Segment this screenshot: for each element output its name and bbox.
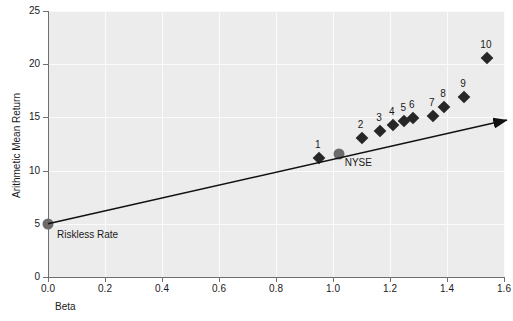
x-axis-tick — [276, 277, 277, 282]
x-axis-tick-label: 0.2 — [85, 283, 125, 294]
x-axis-tick-label: 0.8 — [256, 283, 296, 294]
x-axis-tick-label: 1.6 — [484, 283, 513, 294]
x-axis-tick — [447, 277, 448, 282]
y-axis-tick-label: 25 — [0, 6, 40, 16]
x-axis-tick-label: 0.4 — [142, 283, 182, 294]
data-point-label: 7 — [429, 98, 435, 108]
annotation-label: Riskless Rate — [57, 229, 118, 240]
x-axis-tick-label: 1.4 — [427, 283, 467, 294]
chart-canvas: 05101520250.00.20.40.60.81.01.21.41.6 12… — [0, 0, 513, 321]
data-point-label: 4 — [389, 107, 395, 117]
grid-line-vertical — [504, 11, 505, 277]
highlight-point-nyse[interactable] — [333, 149, 344, 160]
x-axis-tick — [333, 277, 334, 282]
data-point-label: 9 — [460, 79, 466, 89]
x-axis-title: Beta — [55, 301, 76, 312]
y-axis-line — [48, 11, 49, 278]
x-axis-tick-label: 1.2 — [370, 283, 410, 294]
data-point-label: 3 — [376, 113, 382, 123]
data-point-label: 5 — [400, 103, 406, 113]
y-axis-tick — [43, 171, 48, 172]
y-axis-tick-label: 0 — [0, 272, 40, 282]
grid-line-vertical — [162, 11, 163, 277]
data-point-label: 8 — [440, 89, 446, 99]
x-axis-tick — [390, 277, 391, 282]
y-axis-tick — [43, 11, 48, 12]
grid-line-horizontal — [48, 64, 504, 65]
x-axis-tick — [162, 277, 163, 282]
y-axis-tick — [43, 117, 48, 118]
data-point-label: 2 — [358, 120, 364, 130]
x-axis-tick — [219, 277, 220, 282]
grid-line-vertical — [447, 11, 448, 277]
grid-line-horizontal — [48, 171, 504, 172]
x-axis-tick — [105, 277, 106, 282]
highlight-point-riskless-rate[interactable] — [43, 218, 54, 229]
grid-line-vertical — [390, 11, 391, 277]
grid-line-vertical — [276, 11, 277, 277]
x-axis-tick — [504, 277, 505, 282]
x-axis-tick-label: 0.6 — [199, 283, 239, 294]
data-point-label: 1 — [315, 140, 321, 150]
x-axis-tick-label: 1.0 — [313, 283, 353, 294]
grid-line-vertical — [333, 11, 334, 277]
grid-line-horizontal — [48, 224, 504, 225]
data-point-label: 10 — [480, 40, 491, 50]
annotation-label: NYSE — [345, 157, 372, 168]
data-point-label: 6 — [409, 100, 415, 110]
x-axis-tick — [48, 277, 49, 282]
grid-line-horizontal — [48, 11, 504, 12]
grid-line-vertical — [219, 11, 220, 277]
x-axis-tick-label: 0.0 — [28, 283, 68, 294]
y-axis-title: Arithmetic Mean Return — [11, 66, 22, 226]
y-axis-tick — [43, 64, 48, 65]
